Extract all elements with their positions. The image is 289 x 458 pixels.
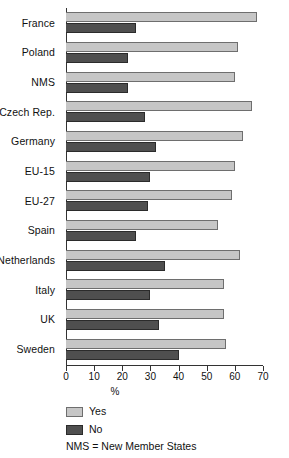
- bar-yes: [66, 190, 232, 200]
- bar-no: [66, 231, 136, 241]
- bar-no: [66, 142, 156, 152]
- x-tick-label: 0: [63, 371, 69, 382]
- bar-yes: [66, 250, 240, 260]
- x-tick-label: 30: [145, 371, 156, 382]
- legend-item-yes: Yes: [66, 404, 266, 419]
- bar-no: [66, 83, 128, 93]
- category-label: EU-15: [0, 156, 60, 186]
- bar-no: [66, 23, 136, 33]
- category-label: Italy: [0, 275, 60, 305]
- bar-no: [66, 53, 128, 63]
- bar-no: [66, 172, 150, 182]
- category-label: Sweden: [0, 334, 60, 364]
- category-label: Poland: [0, 38, 60, 68]
- x-axis-tick-labels: 010203040506070: [0, 371, 289, 385]
- category-label: France: [0, 8, 60, 38]
- bar-yes: [66, 220, 218, 230]
- bar-yes: [66, 309, 224, 319]
- bar-yes: [66, 72, 235, 82]
- bar-yes: [66, 131, 243, 141]
- x-tick-label: 50: [201, 371, 212, 382]
- bar-no: [66, 350, 179, 360]
- category-label: NMS: [0, 67, 60, 97]
- category-label: Germany: [0, 127, 60, 157]
- category-label: Czech Rep.: [0, 97, 60, 127]
- x-tick-label: 20: [117, 371, 128, 382]
- bar-group: [66, 8, 276, 38]
- bar-group: [66, 186, 276, 216]
- plot-area: France Poland NMS Czech Rep. Germany EU-…: [0, 0, 289, 372]
- x-tick-label: 60: [229, 371, 240, 382]
- bar-no: [66, 112, 145, 122]
- category-label: UK: [0, 305, 60, 335]
- bar-group: [66, 156, 276, 186]
- bar-group: [66, 305, 276, 335]
- chart-footnote: NMS = New Member States: [66, 440, 196, 452]
- x-tick-label: 40: [173, 371, 184, 382]
- legend-swatch-yes-icon: [66, 407, 83, 417]
- legend-swatch-no-icon: [66, 425, 83, 435]
- bar-yes: [66, 339, 226, 349]
- bar-yes: [66, 42, 238, 52]
- x-axis-title: %: [0, 386, 230, 397]
- bar-no: [66, 201, 148, 211]
- legend-item-no: No: [66, 422, 266, 437]
- bar-group: [66, 38, 276, 68]
- bar-yes: [66, 161, 235, 171]
- bar-no: [66, 261, 165, 271]
- bar-groups: [66, 8, 276, 364]
- category-label: Netherlands: [0, 245, 60, 275]
- bar-yes: [66, 101, 252, 111]
- bar-no: [66, 290, 150, 300]
- category-label: EU-27: [0, 186, 60, 216]
- x-tick-label: 10: [89, 371, 100, 382]
- category-axis-labels: France Poland NMS Czech Rep. Germany EU-…: [0, 8, 60, 364]
- bar-no: [66, 320, 159, 330]
- x-tick-label: 70: [257, 371, 268, 382]
- category-label: Spain: [0, 216, 60, 246]
- legend-label-yes: Yes: [89, 406, 106, 417]
- bar-group: [66, 334, 276, 364]
- legend: Yes No: [66, 404, 266, 440]
- bar-yes: [66, 279, 224, 289]
- bar-group: [66, 97, 276, 127]
- bar-group: [66, 245, 276, 275]
- legend-label-no: No: [89, 424, 102, 435]
- bar-chart: France Poland NMS Czech Rep. Germany EU-…: [0, 0, 289, 458]
- bar-group: [66, 127, 276, 157]
- bar-group: [66, 216, 276, 246]
- bar-group: [66, 67, 276, 97]
- bar-yes: [66, 12, 257, 22]
- bar-group: [66, 275, 276, 305]
